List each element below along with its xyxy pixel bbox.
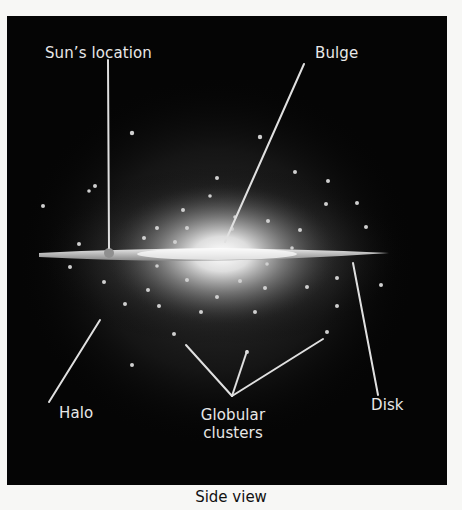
- sun-location-label: Sun’s location: [45, 44, 152, 62]
- globular-label-line2: clusters: [190, 424, 276, 442]
- globular-clusters-label: Globular clusters: [190, 406, 276, 442]
- figure-caption: Side view: [0, 488, 462, 506]
- globular-label-line1: Globular: [190, 406, 276, 424]
- milky-way-side-view-diagram: Sun’s location Bulge Halo Globular clust…: [7, 16, 447, 485]
- bulge-label: Bulge: [315, 44, 358, 62]
- halo-label: Halo: [59, 404, 93, 422]
- disk-label: Disk: [371, 396, 404, 414]
- sun-marker: [104, 248, 114, 258]
- sun-leader-line: [108, 60, 109, 248]
